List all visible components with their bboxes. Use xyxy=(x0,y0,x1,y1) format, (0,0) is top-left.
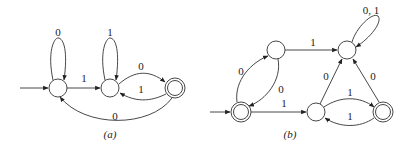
label-p0-p3: 1 xyxy=(281,97,287,109)
diagram-a: 0 1 1 0 1 0 (a) xyxy=(20,26,185,141)
label-p3-p2: 0 xyxy=(323,70,329,82)
edge-q1-q1 xyxy=(103,38,118,80)
label-p2-p2: 0, 1 xyxy=(363,4,380,16)
edge-p1-p0 xyxy=(249,59,279,106)
label-q0-q1: 1 xyxy=(81,72,87,84)
edge-q0-q0 xyxy=(51,38,66,80)
state-p4-accepting xyxy=(373,102,393,122)
label-q0-q0: 0 xyxy=(55,26,61,38)
state-p2 xyxy=(338,41,356,59)
label-p1-p0: 0 xyxy=(278,83,284,95)
state-q2-accepting xyxy=(165,78,185,98)
label-p3-p4: 1 xyxy=(347,86,353,98)
label-q1-q1: 1 xyxy=(107,26,113,38)
label-p4-p3: 1 xyxy=(347,110,353,122)
state-q0 xyxy=(49,79,67,97)
caption-a: (a) xyxy=(104,128,117,141)
label-q2-q1: 1 xyxy=(138,83,144,95)
state-q1 xyxy=(101,79,119,97)
caption-b: (b) xyxy=(284,128,297,141)
label-q1-q2: 0 xyxy=(138,60,144,72)
label-q2-q0: 0 xyxy=(112,110,118,122)
edge-p2-p2 xyxy=(352,15,379,47)
label-p0-p1: 0 xyxy=(238,65,244,77)
label-p4-p2: 0 xyxy=(370,70,376,82)
diagram-b: 0 0 1 0, 1 1 0 1 1 0 xyxy=(210,4,393,141)
state-p0-accepting xyxy=(231,102,251,122)
edge-p3-p4 xyxy=(324,99,374,107)
edge-p0-p1 xyxy=(237,56,268,102)
label-p1-p2: 1 xyxy=(310,36,316,48)
state-p1 xyxy=(267,41,285,59)
state-p3 xyxy=(307,103,325,121)
